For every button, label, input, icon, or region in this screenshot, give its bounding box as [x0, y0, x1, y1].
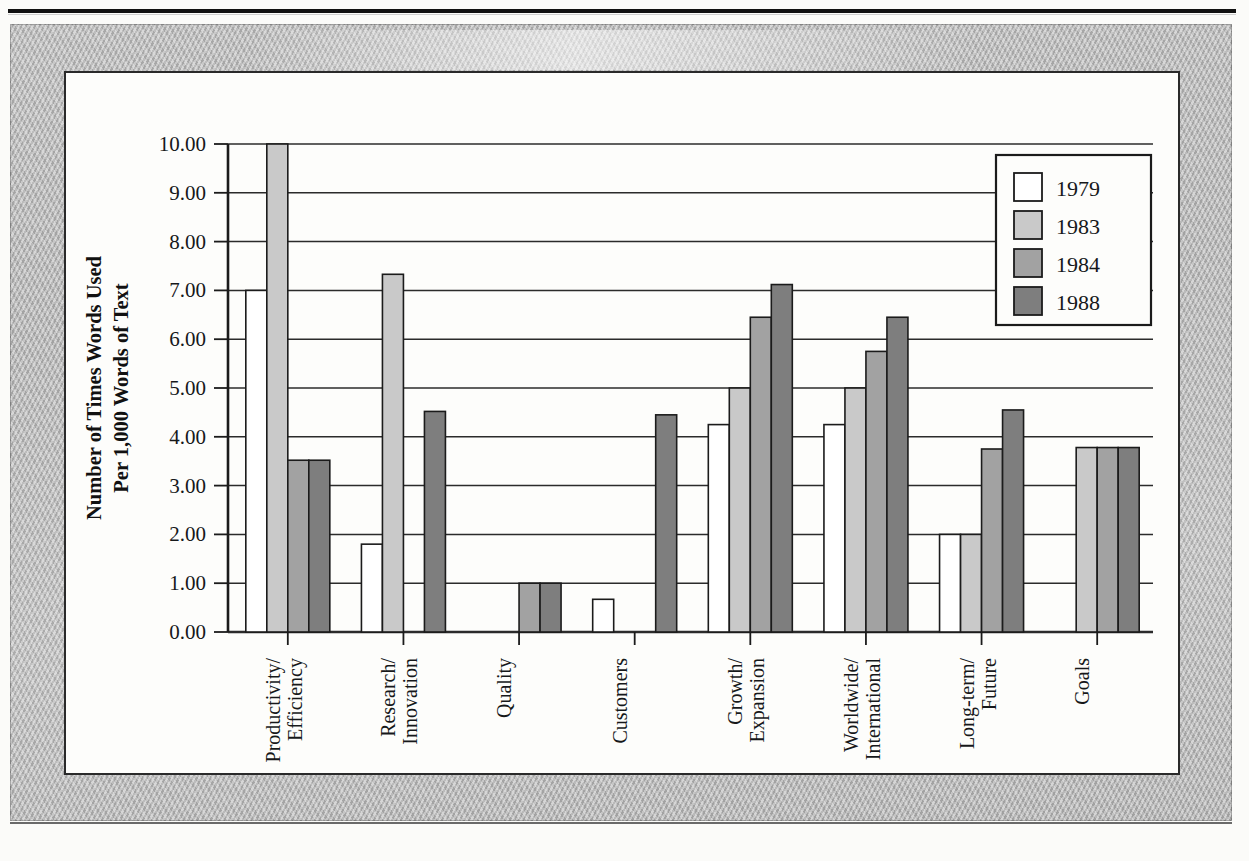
bar-1983-6[interactable] — [961, 534, 982, 632]
bar-1979-4[interactable] — [708, 425, 729, 632]
x-axis-label-line2: Future — [978, 658, 1000, 710]
bar-1988-0[interactable] — [309, 460, 330, 632]
y-axis-tick-label: 3.00 — [169, 474, 206, 498]
x-axis-label-line1: Quality — [493, 658, 516, 718]
x-axis-label-line2: Innovation — [399, 658, 421, 745]
bar-1979-3[interactable] — [593, 599, 614, 632]
x-axis-label-2: Quality — [493, 658, 516, 718]
legend-swatch-1984[interactable] — [1014, 249, 1042, 277]
legend: 1979198319841988 — [996, 155, 1151, 325]
legend-label-1983: 1983 — [1056, 214, 1100, 239]
bar-1983-5[interactable] — [845, 388, 866, 632]
x-axis-label-4: Growth/Expansion — [724, 658, 769, 743]
y-axis-tick-label: 0.00 — [169, 620, 206, 644]
page-background: 10.009.008.007.006.005.004.003.002.001.0… — [0, 0, 1249, 861]
x-axis-label-line1: Customers — [609, 658, 631, 744]
x-axis-label-line1: Growth/ — [724, 658, 746, 725]
bar-1983-4[interactable] — [729, 388, 750, 632]
x-axis-label-line1: Research/ — [377, 658, 399, 737]
bar-1988-3[interactable] — [656, 415, 677, 632]
x-axis-label-7: Goals — [1071, 658, 1093, 705]
bar-1988-7[interactable] — [1118, 448, 1139, 632]
frame-highlight-sheen — [250, 30, 970, 70]
x-axis-label-line2: International — [862, 658, 884, 761]
bar-1979-5[interactable] — [824, 425, 845, 632]
legend-label-1988: 1988 — [1056, 290, 1100, 315]
legend-label-1979: 1979 — [1056, 176, 1100, 201]
bar-1979-1[interactable] — [361, 544, 382, 632]
figure-frame-border: 10.009.008.007.006.005.004.003.002.001.0… — [10, 24, 1232, 821]
bar-1988-4[interactable] — [771, 285, 792, 632]
x-axis-label-line1: Worldwide/ — [840, 658, 862, 752]
bar-1984-6[interactable] — [982, 449, 1003, 632]
y-axis-tick-label: 5.00 — [169, 376, 206, 400]
x-axis-label-0: Productivity/Efficiency — [262, 658, 307, 763]
bar-1988-6[interactable] — [1003, 410, 1024, 632]
legend-swatch-1983[interactable] — [1014, 211, 1042, 239]
x-axis-label-6: Long-term/Future — [956, 658, 1000, 750]
bar-1983-0[interactable] — [267, 144, 288, 632]
y-axis-title: Number of Times Words UsedPer 1,000 Word… — [83, 255, 132, 519]
bar-1979-0[interactable] — [246, 290, 267, 632]
x-axis-label-1: Research/Innovation — [377, 658, 421, 745]
x-axis-label-line1: Long-term/ — [956, 658, 979, 750]
bar-1979-6[interactable] — [940, 534, 961, 632]
y-axis-tick-label: 9.00 — [169, 181, 206, 205]
bar-1983-1[interactable] — [382, 274, 403, 632]
y-axis-tick-label: 10.00 — [159, 132, 206, 156]
x-axis-label-3: Customers — [609, 658, 631, 744]
bar-1983-7[interactable] — [1076, 448, 1097, 632]
bar-1984-0[interactable] — [288, 460, 309, 632]
top-horizontal-rule — [8, 9, 1236, 13]
bar-1984-2[interactable] — [519, 583, 540, 632]
x-axis-label-line2: Expansion — [746, 658, 769, 742]
y-axis-tick-label: 7.00 — [169, 278, 206, 302]
y-axis-title-line1: Number of Times Words Used — [83, 255, 105, 519]
y-axis-title-line2: Per 1,000 Words of Text — [110, 283, 132, 493]
bar-1988-5[interactable] — [887, 317, 908, 632]
x-axis-label-5: Worldwide/International — [840, 658, 884, 761]
bar-1988-2[interactable] — [540, 583, 561, 632]
legend-label-1984: 1984 — [1056, 252, 1100, 277]
y-axis-tick-label: 8.00 — [169, 230, 206, 254]
y-axis-tick-label: 4.00 — [169, 425, 206, 449]
chart-canvas: 10.009.008.007.006.005.004.003.002.001.0… — [66, 73, 1178, 773]
x-axis-label-line2: Efficiency — [284, 658, 307, 741]
y-axis-tick-label: 2.00 — [169, 522, 206, 546]
plot-area-wrapper: 10.009.008.007.006.005.004.003.002.001.0… — [66, 73, 1178, 773]
bar-1984-7[interactable] — [1097, 448, 1118, 632]
y-axis-tick-label: 1.00 — [169, 571, 206, 595]
legend-swatch-1988[interactable] — [1014, 287, 1042, 315]
bar-1984-4[interactable] — [750, 317, 771, 632]
x-axis-label-line1: Goals — [1071, 658, 1093, 705]
x-axis-label-line1: Productivity/ — [262, 658, 285, 763]
y-axis-tick-label: 6.00 — [169, 327, 206, 351]
bar-1984-5[interactable] — [866, 351, 887, 632]
bar-chart: 10.009.008.007.006.005.004.003.002.001.0… — [66, 73, 1178, 773]
bar-1988-1[interactable] — [424, 411, 445, 632]
legend-swatch-1979[interactable] — [1014, 173, 1042, 201]
